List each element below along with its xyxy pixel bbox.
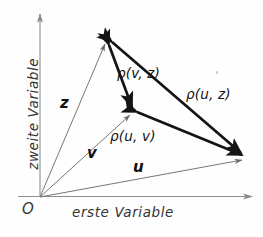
distance-label-rho-v-z: ρ(v, z): [117, 67, 160, 81]
vector-z-line: [40, 44, 105, 197]
y-axis-label: zweite Variable: [27, 54, 41, 174]
vector-label-v: v: [87, 146, 97, 161]
x-axis-label: erste Variable: [72, 206, 174, 220]
vector-diagram-figure: erste Variable zweite Variable O z v u ρ…: [0, 0, 263, 237]
origin-label: O: [22, 202, 34, 217]
distance-label-rho-u-v: ρ(u, v): [110, 130, 156, 144]
paper-speck-artifact: [216, 71, 218, 74]
distance-label-rho-u-z: ρ(u, z): [186, 88, 231, 102]
vector-label-z: z: [60, 96, 69, 111]
vector-label-u: u: [133, 160, 144, 175]
